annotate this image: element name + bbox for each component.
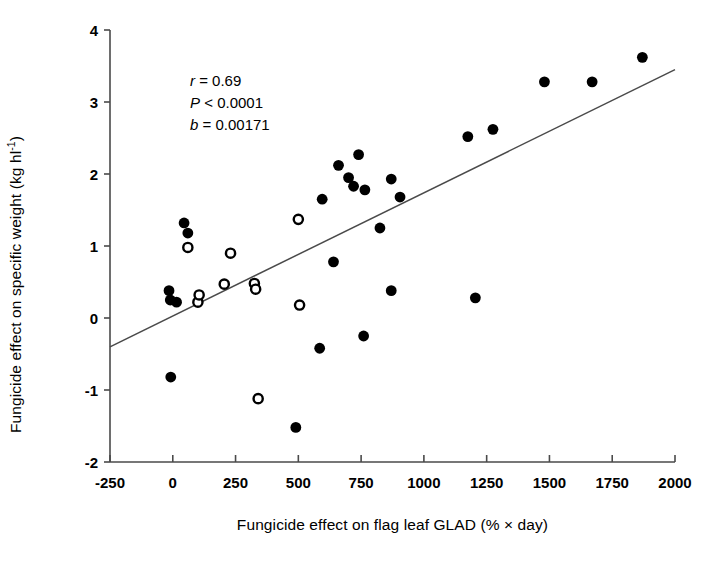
data-point-filled — [353, 149, 364, 160]
data-point-filled — [358, 331, 369, 342]
data-point-filled — [587, 76, 598, 87]
data-point-filled — [328, 256, 339, 267]
data-point-filled — [395, 192, 406, 203]
data-point-filled — [333, 160, 344, 171]
plot-canvas: -2-101234 -25002505007501000125015001750… — [0, 0, 727, 569]
y-tick-label: 3 — [90, 94, 98, 111]
data-point-filled — [348, 181, 359, 192]
x-tick-label: 750 — [349, 474, 374, 491]
data-point-filled — [290, 422, 301, 433]
y-axis-ticks — [104, 30, 110, 462]
data-point-filled — [539, 76, 550, 87]
data-point-open — [294, 215, 303, 224]
data-point-filled — [386, 285, 397, 296]
data-point-open — [295, 300, 304, 309]
x-tick-label: 0 — [169, 474, 177, 491]
data-point-filled — [182, 228, 193, 239]
data-point-filled — [375, 223, 386, 234]
data-point-filled — [359, 184, 370, 195]
x-tick-label: 1000 — [407, 474, 440, 491]
y-tick-label: -2 — [85, 454, 98, 471]
data-point-filled — [164, 285, 175, 296]
annotation-p-value: P < 0.0001 — [190, 92, 270, 114]
x-tick-label: 1250 — [470, 474, 503, 491]
annotation-correlation: r = 0.69 — [190, 70, 270, 92]
data-points-open — [183, 215, 304, 403]
y-tick-label: 0 — [90, 310, 98, 327]
y-tick-label: 4 — [90, 22, 99, 39]
y-tick-label: -1 — [85, 382, 98, 399]
y-tick-label: 1 — [90, 238, 98, 255]
x-axis-tick-labels: -250025050075010001250150017502000 — [95, 474, 692, 491]
x-tick-label: 250 — [223, 474, 248, 491]
y-axis-label: Fungicide effect on specific weight (kg … — [0, 0, 30, 569]
x-tick-label: 2000 — [658, 474, 691, 491]
x-axis-ticks — [110, 455, 675, 462]
scatter-plot-figure: -2-101234 -25002505007501000125015001750… — [0, 0, 727, 569]
x-axis-label: Fungicide effect on flag leaf GLAD (% × … — [110, 516, 675, 534]
data-point-filled — [314, 343, 325, 354]
annotation-slope: b = 0.00171 — [190, 114, 270, 136]
y-tick-label: 2 — [90, 166, 98, 183]
data-point-filled — [165, 372, 176, 383]
x-tick-label: 1750 — [596, 474, 629, 491]
data-point-filled — [317, 194, 328, 205]
data-point-filled — [386, 174, 397, 185]
data-point-filled — [171, 297, 182, 308]
data-point-open — [220, 280, 229, 289]
data-point-filled — [179, 218, 190, 229]
data-point-open — [195, 290, 204, 299]
x-tick-label: 1500 — [533, 474, 566, 491]
data-point-open — [251, 285, 260, 294]
data-point-filled — [488, 124, 499, 135]
x-tick-label: 500 — [286, 474, 311, 491]
data-point-filled — [470, 292, 481, 303]
y-axis-tick-labels: -2-101234 — [85, 22, 99, 471]
data-point-filled — [637, 52, 648, 63]
statistics-annotation-block: r = 0.69 P < 0.0001 b = 0.00171 — [190, 70, 270, 137]
data-point-open — [254, 394, 263, 403]
data-point-open — [226, 249, 235, 258]
x-tick-label: -250 — [95, 474, 125, 491]
data-point-filled — [462, 131, 473, 142]
data-point-open — [183, 243, 192, 252]
